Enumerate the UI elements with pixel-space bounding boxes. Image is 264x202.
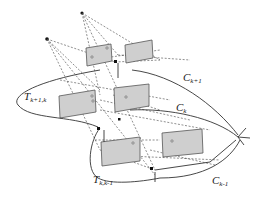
multi-camera-trajectory-diagram: Ck+1 Ck Ck-1 Tk+1,k Tk,k-1 [0,0,264,202]
label-C-k: Ck [176,101,187,115]
image-plane-k+1-b [125,40,153,63]
label-C-k-1: Ck-1 [212,174,228,188]
label-T-k-k-1: Tk,k-1 [93,173,113,187]
world-axes-icon [238,128,250,145]
image-plane-k-1-b [162,129,203,157]
image-plane-k-a [59,90,96,118]
label-T-k+1-k: Tk+1,k [24,90,47,104]
image-plane-k-1-a [101,137,140,166]
image-plane-k-b [114,84,149,112]
world-points [45,11,83,40]
label-C-k+1: Ck+1 [183,71,202,85]
